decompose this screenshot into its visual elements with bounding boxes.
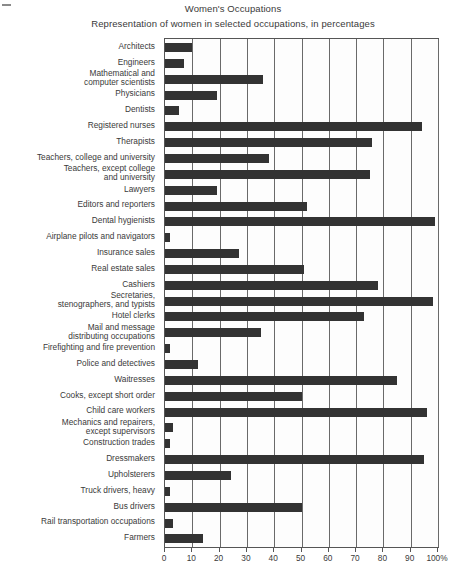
bar xyxy=(165,408,427,417)
gridline-30 xyxy=(247,39,248,547)
bar xyxy=(165,471,231,480)
plot-area xyxy=(164,38,439,548)
bar xyxy=(165,233,170,242)
category-label: Child care workers xyxy=(0,406,155,415)
axis-tick-label: 30 xyxy=(241,553,250,563)
bar xyxy=(165,59,184,68)
category-label: Dentists xyxy=(0,105,155,114)
bar xyxy=(165,312,364,321)
axis-tick-label: 50 xyxy=(296,553,305,563)
category-label: Farmers xyxy=(0,533,155,542)
category-label: Architects xyxy=(0,42,155,51)
bar xyxy=(165,519,173,528)
axis-tick-label: 20 xyxy=(214,553,223,563)
axis-tick-label: 90 xyxy=(405,553,414,563)
chart-subtitle: Representation of women in selected occu… xyxy=(0,18,466,29)
bar xyxy=(165,217,435,226)
axis-tick xyxy=(219,547,220,552)
bar xyxy=(165,439,170,448)
gridline-50 xyxy=(302,39,303,547)
axis-tick-label: 60 xyxy=(323,553,332,563)
category-label: Physicians xyxy=(0,89,155,98)
axis-tick-label: 100% xyxy=(426,553,447,563)
bar xyxy=(165,122,422,131)
gridline-80 xyxy=(383,39,384,547)
axis-tick xyxy=(437,547,438,552)
axis-tick-label: 80 xyxy=(378,553,387,563)
category-label: Mathematical and computer scientists xyxy=(0,69,155,87)
category-label: Therapists xyxy=(0,137,155,146)
category-label: Dental hygienists xyxy=(0,216,155,225)
bar xyxy=(165,138,372,147)
category-label: Firefighting and fire prevention xyxy=(0,343,155,352)
bar xyxy=(165,91,217,100)
axis-tick xyxy=(382,547,383,552)
category-label: Teachers, college and university xyxy=(0,153,155,162)
bar xyxy=(165,328,261,337)
category-label: Mail and message distributing occupation… xyxy=(0,323,155,341)
category-axis-labels: ArchitectsEngineersMathematical and comp… xyxy=(0,38,160,546)
axis-tick-label: 70 xyxy=(350,553,359,563)
category-label: Bus drivers xyxy=(0,502,155,511)
category-label: Upholsterers xyxy=(0,470,155,479)
axis-tick xyxy=(355,547,356,552)
bar xyxy=(165,106,179,115)
gridline-90 xyxy=(411,39,412,547)
category-label: Insurance sales xyxy=(0,248,155,257)
category-label: Rail transportation occupations xyxy=(0,517,155,526)
category-label: Truck drivers, heavy xyxy=(0,486,155,495)
axis-tick-label: 40 xyxy=(269,553,278,563)
category-label: Police and detectives xyxy=(0,359,155,368)
category-label: Lawyers xyxy=(0,185,155,194)
category-label: Airplane pilots and navigators xyxy=(0,232,155,241)
bar xyxy=(165,344,170,353)
bar xyxy=(165,297,433,306)
category-label: Dressmakers xyxy=(0,454,155,463)
bar xyxy=(165,392,302,401)
category-label: Hotel clerks xyxy=(0,311,155,320)
bar xyxy=(165,202,307,211)
category-label: Secretaries, stenographers, and typists xyxy=(0,291,155,309)
axis-tick-label: 10 xyxy=(187,553,196,563)
axis-tick xyxy=(410,547,411,552)
gridline-40 xyxy=(274,39,275,547)
axis-tick xyxy=(191,547,192,552)
category-label: Mechanics and repairers, except supervis… xyxy=(0,418,155,436)
axis-tick xyxy=(328,547,329,552)
bar xyxy=(165,360,198,369)
bar xyxy=(165,376,397,385)
category-label: Construction trades xyxy=(0,438,155,447)
bar xyxy=(165,423,173,432)
gridline-60 xyxy=(329,39,330,547)
axis-tick-label: 0 xyxy=(162,553,167,563)
axis-tick xyxy=(273,547,274,552)
bar xyxy=(165,265,304,274)
chart-title: Women's Occupations xyxy=(0,3,466,14)
axis-tick xyxy=(164,547,165,552)
bar xyxy=(165,503,302,512)
category-label: Teachers, except college and university xyxy=(0,164,155,182)
bar xyxy=(165,455,424,464)
bar xyxy=(165,281,378,290)
bar xyxy=(165,487,170,496)
bar xyxy=(165,186,217,195)
bar xyxy=(165,154,269,163)
value-axis: 0102030405060708090100% xyxy=(164,547,438,579)
category-label: Cooks, except short order xyxy=(0,391,155,400)
axis-tick xyxy=(301,547,302,552)
category-label: Registered nurses xyxy=(0,121,155,130)
category-label: Editors and reporters xyxy=(0,200,155,209)
bar xyxy=(165,170,370,179)
bar xyxy=(165,43,192,52)
category-label: Real estate sales xyxy=(0,264,155,273)
gridline-100 xyxy=(438,39,439,547)
bar xyxy=(165,534,203,543)
bar xyxy=(165,75,263,84)
axis-tick xyxy=(246,547,247,552)
chart-page: Women's Occupations Representation of wo… xyxy=(0,0,466,585)
category-label: Cashiers xyxy=(0,280,155,289)
category-label: Waitresses xyxy=(0,375,155,384)
category-label: Engineers xyxy=(0,58,155,67)
gridline-70 xyxy=(356,39,357,547)
bar xyxy=(165,249,239,258)
